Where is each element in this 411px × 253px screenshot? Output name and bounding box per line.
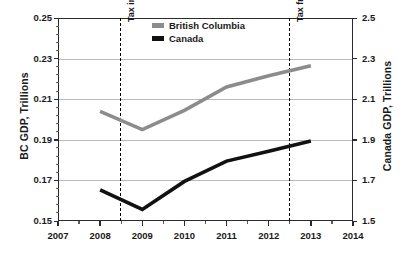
series-line-canada [100, 141, 311, 209]
gdp-dual-axis-line-chart: BC GDP, Trillions Canada GDP, Trillions … [0, 0, 411, 253]
series-line-british-columbia [100, 66, 311, 130]
series-layer [0, 0, 411, 253]
